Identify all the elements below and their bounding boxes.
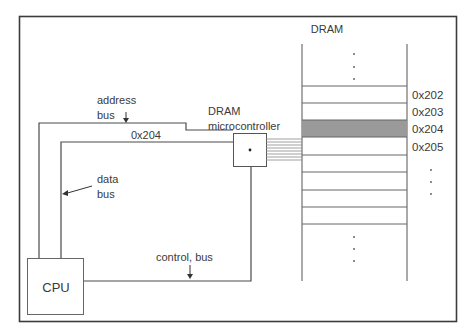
data-bus-arrow [64, 186, 92, 194]
controller-label-2: microcontroller [208, 120, 280, 132]
address-bus-line [39, 123, 233, 258]
ellipsis-dot [353, 53, 355, 55]
dram-diagram: CPU DRAM address bus 0x204 data bus cont… [0, 0, 475, 336]
data-bus-label-2: bus [97, 188, 115, 200]
control-bus-label: control, bus [156, 251, 213, 263]
dram-title: DRAM [311, 23, 343, 35]
controller-wires [266, 139, 302, 160]
dram-array [302, 44, 432, 281]
dram-address-0x202: 0x202 [412, 89, 443, 101]
data-bus-line [61, 142, 233, 258]
controller-label-1: DRAM [208, 105, 240, 117]
data-bus-label-1: data [97, 173, 119, 185]
address-bus-label-2: bus [97, 109, 115, 121]
dram-address-0x204: 0x204 [412, 123, 444, 135]
dram-address-0x203: 0x203 [412, 106, 443, 118]
address-bus-label-1: address [97, 94, 137, 106]
address-value: 0x204 [131, 129, 161, 141]
cpu-label: CPU [42, 280, 69, 295]
dram-row-highlighted [302, 120, 407, 137]
outer-frame [20, 17, 457, 322]
dram-address-0x205: 0x205 [412, 141, 443, 153]
